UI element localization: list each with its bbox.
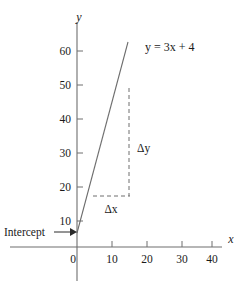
intercept-annotation: Intercept <box>4 226 77 239</box>
line-series-y-equals-3x-plus-4 <box>77 42 128 233</box>
x-tick-label-40: 40 <box>206 253 218 265</box>
y-tick-marks <box>77 51 83 221</box>
y-tick-label-40: 40 <box>60 113 72 125</box>
x-axis-label: x <box>227 232 234 246</box>
axis-group <box>10 22 222 281</box>
line-graph-figure: 60 50 40 30 20 10 0 10 20 30 40 y x Δx Δ… <box>0 0 247 290</box>
y-tick-label-20: 20 <box>60 181 72 193</box>
y-tick-label-30: 30 <box>60 147 72 159</box>
y-tick-labels: 60 50 40 30 20 10 <box>60 45 72 227</box>
x-tick-marks <box>112 241 212 247</box>
x-tick-label-30: 30 <box>176 253 188 265</box>
delta-y-label: Δy <box>137 142 150 155</box>
intercept-label: Intercept <box>4 226 46 239</box>
x-tick-labels: 0 10 20 30 40 <box>70 253 218 265</box>
delta-x-label: Δx <box>104 203 117 215</box>
x-tick-label-20: 20 <box>141 253 153 265</box>
y-axis-label: y <box>75 10 82 24</box>
intercept-arrow-head <box>70 228 77 236</box>
x-tick-label-10: 10 <box>106 253 118 265</box>
x-tick-label-0: 0 <box>70 253 76 265</box>
equation-label: y = 3x + 4 <box>145 40 195 54</box>
y-tick-label-10: 10 <box>60 215 72 227</box>
y-tick-label-50: 50 <box>60 79 72 91</box>
y-tick-label-60: 60 <box>60 45 72 57</box>
